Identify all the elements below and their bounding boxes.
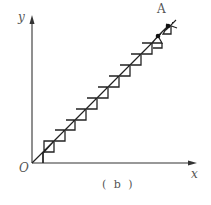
point-A-label: A <box>157 2 166 16</box>
staircase-steps <box>43 43 162 163</box>
zigzag-path <box>32 26 171 163</box>
x-axis-label: x <box>191 167 198 181</box>
y-axis-arrow-icon <box>30 15 35 24</box>
x-axis-arrow-icon <box>188 161 197 166</box>
point-marker <box>156 34 161 39</box>
figure-caption: ( b ) <box>102 178 135 191</box>
y-axis-label: y <box>18 10 25 24</box>
point-A-marker <box>166 24 171 29</box>
origin-label: O <box>19 161 29 175</box>
diagram-canvas <box>0 0 211 205</box>
